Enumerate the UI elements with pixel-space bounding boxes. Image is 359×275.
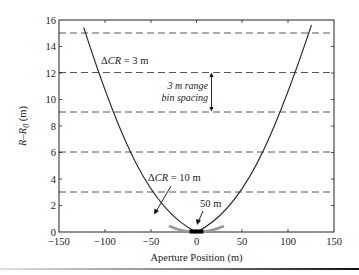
aperture-50m-bar — [190, 230, 204, 234]
y-tick-label: 10 — [46, 94, 57, 105]
y-tick-label: 0 — [51, 227, 56, 238]
x-ticks — [105, 20, 288, 232]
y-tick-label: 16 — [46, 15, 57, 26]
y-tick-label: 4 — [51, 174, 57, 185]
y-tick-label: 14 — [46, 41, 57, 52]
y-tick-label: 8 — [51, 121, 56, 132]
x-axis-label: Aperture Position (m) — [150, 252, 243, 264]
bin-spacing-label-line1: 3 m range — [166, 80, 208, 91]
x-tick-label: 100 — [280, 236, 296, 247]
range-curvature-chart: −150 −100 −50 0 50 100 150 0 2 4 6 8 10 … — [0, 0, 359, 275]
y-tick-label: 2 — [51, 200, 56, 211]
y-axis-label: R–R0 (m) — [17, 106, 31, 147]
x-tick-label: 150 — [326, 236, 342, 247]
x-tick-labels: −150 −100 −50 0 50 100 150 — [48, 236, 342, 247]
delta-cr-3m-label: ΔCR = 3 m — [101, 55, 148, 66]
x-tick-label: −50 — [143, 236, 159, 247]
delta-cr-10m-label: ΔCR = 10 m — [148, 172, 201, 183]
y-tick-label: 6 — [51, 147, 56, 158]
bin-spacing-label-line2: bin spacing — [162, 92, 208, 103]
bottom-rule — [0, 268, 359, 270]
x-tick-label: 0 — [194, 236, 199, 247]
y-tick-labels: 0 2 4 6 8 10 12 14 16 — [46, 15, 57, 238]
y-tick-label: 12 — [46, 68, 57, 79]
aperture-50m-arrow-icon — [196, 211, 203, 225]
x-tick-label: 50 — [237, 236, 248, 247]
bin-spacing-arrow-icon — [210, 73, 214, 112]
plot-frame — [59, 20, 334, 232]
x-tick-label: −100 — [94, 236, 116, 247]
aperture-50m-label: 50 m — [200, 198, 221, 209]
cr10-arrow-icon — [154, 185, 172, 215]
